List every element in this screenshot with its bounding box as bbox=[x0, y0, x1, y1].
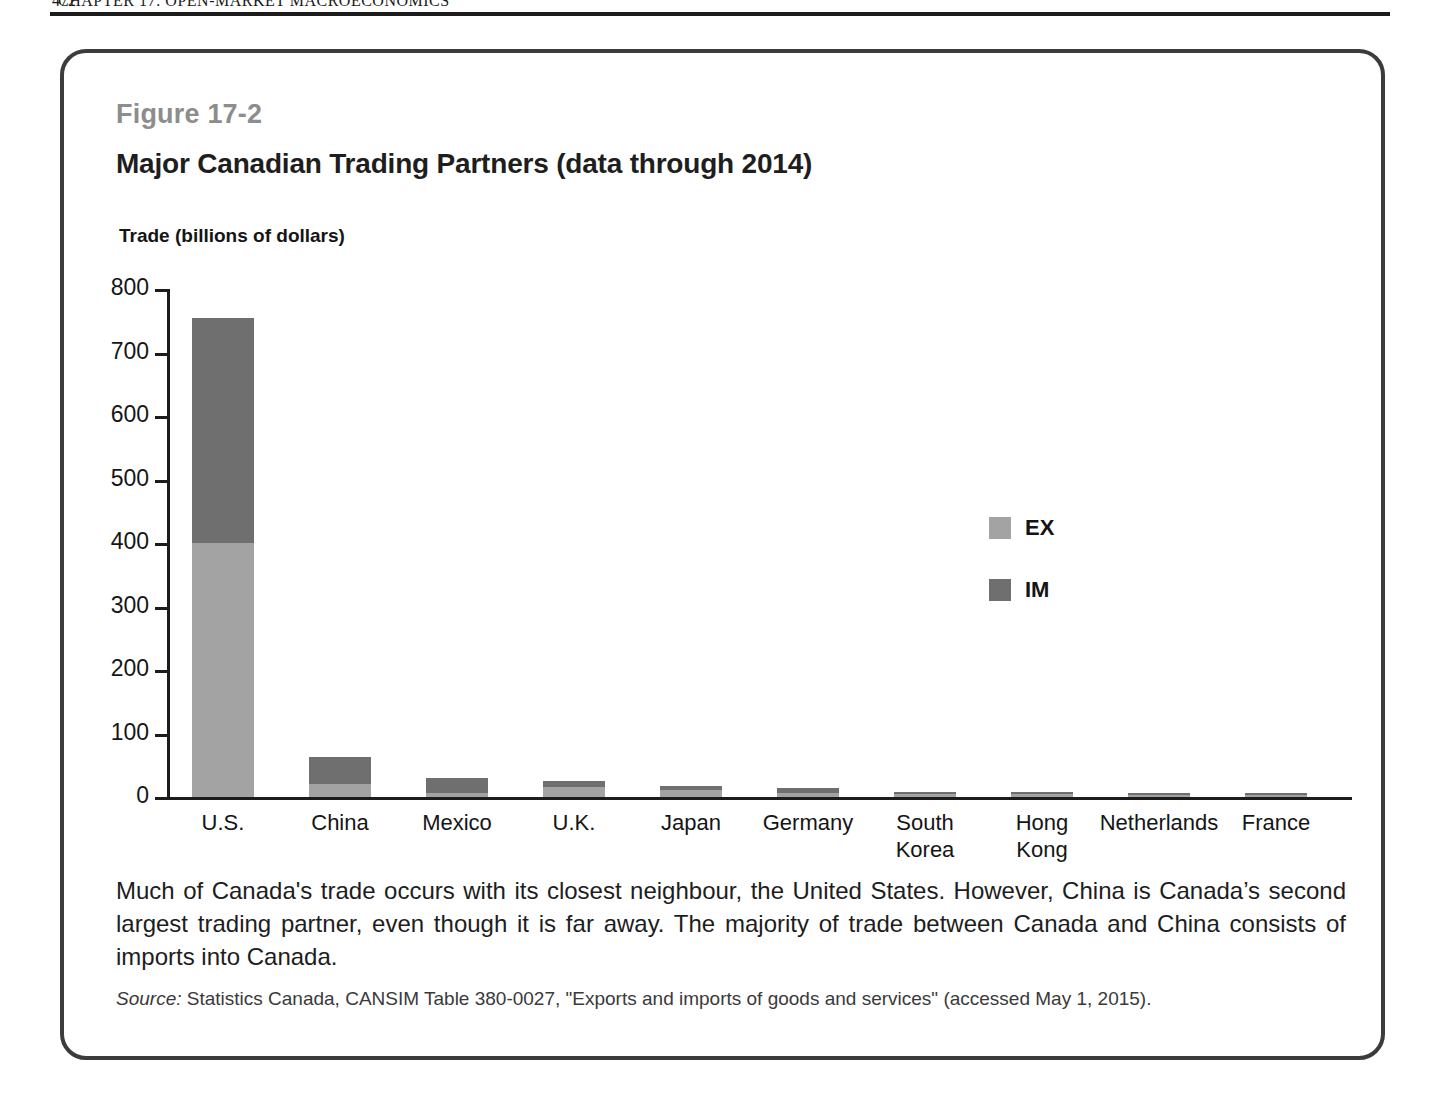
legend-item: IM bbox=[989, 577, 1054, 603]
y-axis-tick-label: 800 bbox=[77, 274, 149, 301]
plot-area: 0100200300400500600700800 U.S.ChinaMexic… bbox=[167, 253, 1352, 813]
y-axis-tick-label: 200 bbox=[77, 655, 149, 682]
y-axis-tick bbox=[155, 797, 167, 800]
bar-group bbox=[1128, 793, 1190, 797]
y-axis-tick bbox=[155, 734, 167, 737]
y-axis-tick-label: 500 bbox=[77, 465, 149, 492]
bar-segment-export bbox=[426, 793, 488, 797]
bar-segment-import bbox=[309, 757, 371, 784]
bar-segment-export bbox=[309, 784, 371, 797]
bar-group bbox=[660, 786, 722, 797]
legend-swatch-im bbox=[989, 579, 1011, 601]
bar-segment-export bbox=[1011, 794, 1073, 797]
bar-segment-export bbox=[543, 787, 605, 797]
y-axis-tick-label: 100 bbox=[77, 719, 149, 746]
y-axis-tick-label: 400 bbox=[77, 528, 149, 555]
y-axis-tick bbox=[155, 543, 167, 546]
bar-group bbox=[1011, 792, 1073, 797]
bar-segment-export bbox=[192, 543, 254, 797]
y-axis-tick bbox=[155, 670, 167, 673]
y-axis-tick bbox=[155, 289, 167, 292]
y-axis-tick-label: 700 bbox=[77, 338, 149, 365]
bar-segment-export bbox=[660, 790, 722, 797]
running-header: 472 CHAPTER 17: OPEN-MARKET MACROECONOMI… bbox=[0, 0, 1429, 22]
bar-segment-export bbox=[777, 793, 839, 797]
legend-label: EX bbox=[1025, 515, 1054, 541]
y-axis-title: Trade (billions of dollars) bbox=[119, 225, 345, 247]
bar-group bbox=[543, 781, 605, 797]
bar-group bbox=[777, 788, 839, 798]
source-label: Source: bbox=[116, 988, 181, 1009]
bar-segment-import bbox=[426, 778, 488, 793]
bar-group bbox=[1245, 793, 1307, 797]
chart: Trade (billions of dollars) 010020030040… bbox=[64, 53, 1389, 883]
y-axis-tick-label: 600 bbox=[77, 401, 149, 428]
bar-group bbox=[192, 318, 254, 797]
bar-group bbox=[426, 778, 488, 797]
bar-segment-export bbox=[1245, 795, 1307, 797]
figure-box: Figure 17-2 Major Canadian Trading Partn… bbox=[60, 49, 1385, 1060]
x-axis-line bbox=[167, 797, 1352, 800]
legend-item: EX bbox=[989, 515, 1054, 541]
y-axis-tick bbox=[155, 607, 167, 610]
legend-label: IM bbox=[1025, 577, 1049, 603]
bar-segment-import bbox=[192, 318, 254, 543]
y-axis-tick bbox=[155, 353, 167, 356]
chart-legend: EXIM bbox=[989, 515, 1054, 639]
y-axis-tick-label: 300 bbox=[77, 592, 149, 619]
bar-segment-export bbox=[1128, 795, 1190, 797]
y-axis-tick bbox=[155, 416, 167, 419]
figure-source: Source: Statistics Canada, CANSIM Table … bbox=[116, 988, 1346, 1010]
y-axis-tick-label: 0 bbox=[77, 782, 149, 809]
bar-group bbox=[894, 792, 956, 797]
bar-segment-export bbox=[894, 794, 956, 797]
legend-swatch-ex bbox=[989, 517, 1011, 539]
bar-group bbox=[309, 757, 371, 797]
y-axis-tick bbox=[155, 480, 167, 483]
source-text: Statistics Canada, CANSIM Table 380-0027… bbox=[187, 988, 1152, 1009]
y-axis-line bbox=[167, 289, 170, 799]
header-rule bbox=[50, 12, 1390, 16]
x-axis-label: France bbox=[1196, 809, 1356, 836]
figure-caption: Much of Canada's trade occurs with its c… bbox=[116, 875, 1346, 974]
running-header-title: CHAPTER 17: OPEN-MARKET MACROECONOMICS bbox=[58, 0, 450, 10]
